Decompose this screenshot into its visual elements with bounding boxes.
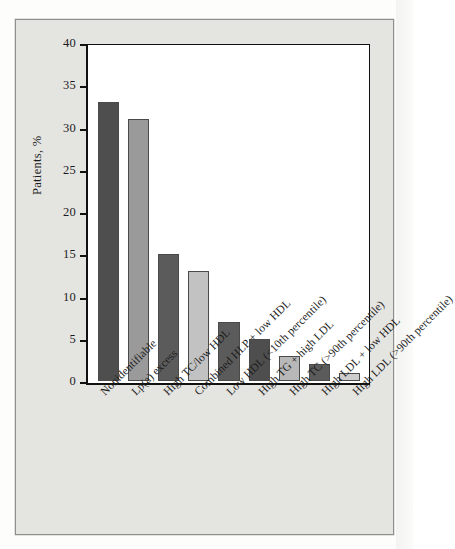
y-tick-label: 10: [63, 290, 76, 305]
y-axis: 0510152025303540: [16, 20, 86, 534]
bar: [98, 102, 119, 381]
bar-slot: [153, 46, 183, 381]
y-tick-label: 35: [63, 78, 76, 93]
y-tick-label: 25: [63, 163, 76, 178]
y-tick-label: 15: [63, 247, 76, 262]
page-edge-artifact: [396, 0, 413, 549]
y-tick-label: 20: [63, 205, 76, 220]
x-axis-labels: NonidentifiableLp(a) excessHigh TC/low H…: [86, 385, 370, 535]
y-tick-label: 40: [63, 36, 76, 51]
y-tick-label: 5: [70, 332, 76, 347]
figure-frame: Patients, % 0510152025303540 Nonidentifi…: [15, 19, 394, 535]
y-tick-label: 0: [70, 374, 76, 389]
y-tick-label: 30: [63, 121, 76, 136]
bar-slot: [93, 46, 123, 381]
bar-slot: [184, 46, 214, 381]
bar-slot: [123, 46, 153, 381]
